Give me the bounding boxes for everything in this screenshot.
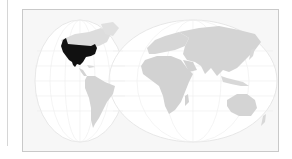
left-divider-line xyxy=(7,0,8,146)
world-map xyxy=(22,9,279,152)
world-map-svg xyxy=(23,10,278,151)
